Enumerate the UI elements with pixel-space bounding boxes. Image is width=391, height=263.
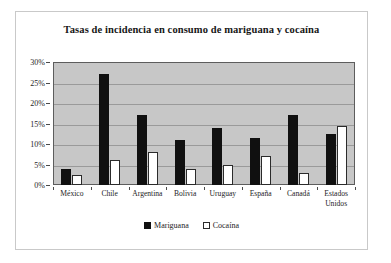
x-tick-mark [53, 187, 54, 190]
x-tick-label: Canadá [280, 189, 318, 199]
bar-cocaina [223, 165, 233, 186]
y-tick-mark [46, 83, 50, 84]
bar-group [317, 62, 355, 185]
y-tick-mark [46, 165, 50, 166]
bar-group [91, 62, 129, 185]
bar-cocaina [186, 169, 196, 185]
legend-label: Mariguana [154, 221, 189, 230]
x-tick-label: Bolivia [166, 189, 204, 199]
y-tick-mark [46, 124, 50, 125]
bar-group [280, 62, 318, 185]
x-tick-mark [317, 187, 318, 190]
x-tick-mark [204, 187, 205, 190]
x-tick-mark [91, 187, 92, 190]
bars-layer [53, 62, 355, 185]
x-tick-label: Uruguay [204, 189, 242, 199]
x-tick-label: España [242, 189, 280, 199]
x-tick-label: Chile [91, 189, 129, 199]
y-tick-label: 25% [30, 78, 45, 87]
y-tick-label: 30% [30, 58, 45, 67]
bar-group [53, 62, 91, 185]
chart-title: Tasas de incidencia en consumo de marigu… [16, 24, 367, 35]
legend-item: Mariguana [144, 221, 189, 230]
bar-group [166, 62, 204, 185]
y-tick-mark [46, 144, 50, 145]
x-tick-label: Argentina [129, 189, 167, 199]
bar-group [204, 62, 242, 185]
legend-item: Cocaína [203, 221, 239, 230]
x-tick-mark [280, 187, 281, 190]
x-tick-mark [242, 187, 243, 190]
bar-cocaina [299, 173, 309, 185]
bar-mariguana [326, 134, 336, 185]
y-tick-label: 5% [34, 160, 45, 169]
y-tick-label: 15% [30, 119, 45, 128]
x-tick-mark [129, 187, 130, 190]
x-tick-mark [166, 187, 167, 190]
y-tick-mark [46, 103, 50, 104]
x-tick-label: Estados Unidos [317, 189, 355, 208]
bar-mariguana [137, 115, 147, 185]
bar-cocaina [337, 126, 347, 185]
bar-group [129, 62, 167, 185]
bar-group [242, 62, 280, 185]
bar-mariguana [175, 140, 185, 185]
x-tick-label: México [53, 189, 91, 199]
bar-cocaina [110, 160, 120, 185]
y-tick-label: 20% [30, 99, 45, 108]
x-axis: MéxicoChileArgentinaBoliviaUruguayEspaña… [53, 187, 355, 217]
x-tick-mark [355, 187, 356, 190]
bar-cocaina [261, 156, 271, 185]
bar-cocaina [148, 152, 158, 185]
bar-mariguana [99, 74, 109, 185]
bar-mariguana [250, 138, 260, 185]
legend-label: Cocaína [213, 221, 239, 230]
legend-swatch-mariguana [144, 222, 151, 229]
chart-figure: Tasas de incidencia en consumo de marigu… [0, 0, 391, 263]
chart-legend: MariguanaCocaína [16, 221, 367, 230]
bar-mariguana [61, 169, 71, 185]
y-axis: 0%5%10%15%20%25%30% [14, 55, 50, 192]
y-tick-label: 10% [30, 140, 45, 149]
bar-cocaina [72, 175, 82, 185]
legend-swatch-cocaina [203, 222, 210, 229]
bar-mariguana [288, 115, 298, 185]
bar-mariguana [212, 128, 222, 185]
y-tick-mark [46, 62, 50, 63]
y-tick-mark [46, 185, 50, 186]
y-tick-label: 0% [34, 181, 45, 190]
